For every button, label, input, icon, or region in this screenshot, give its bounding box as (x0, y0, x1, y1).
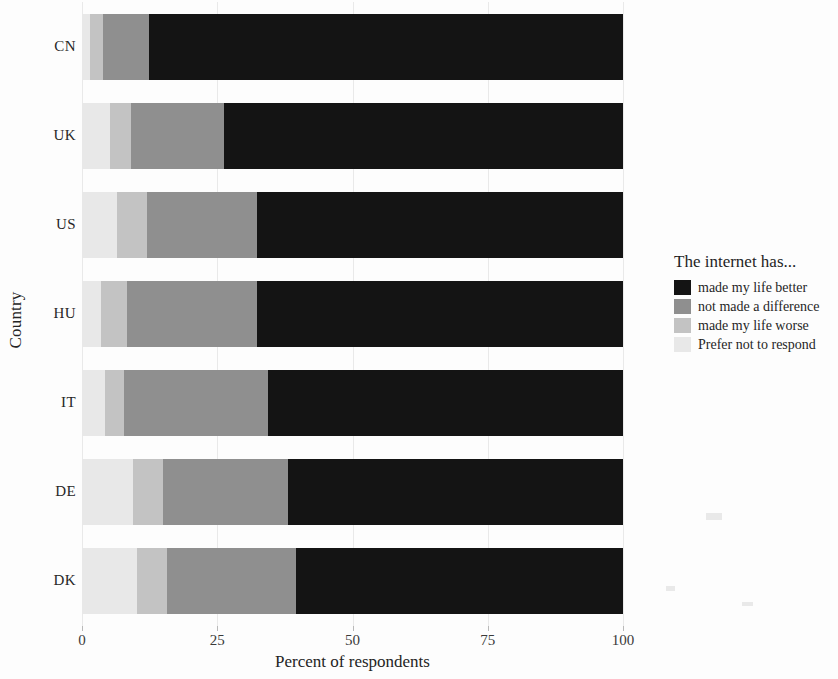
x-tick-label-25: 25 (187, 632, 247, 649)
legend-swatch-icon (674, 280, 691, 295)
bar-row (82, 370, 623, 436)
legend-item: not made a difference (674, 297, 836, 316)
bar-segment (127, 281, 257, 347)
bar-segment (224, 103, 623, 169)
legend-item-label: made my life worse (698, 318, 809, 334)
bar-segment (131, 103, 224, 169)
legend-swatch-icon (674, 318, 691, 333)
x-tick-mark (82, 626, 83, 631)
x-axis-title: Percent of respondents (82, 652, 623, 672)
scan-artifact (706, 513, 722, 520)
legend-item-label: Prefer not to respond (698, 337, 816, 353)
legend-title: The internet has... (674, 252, 836, 272)
legend-item: Prefer not to respond (674, 335, 836, 354)
legend-item-label: not made a difference (698, 299, 819, 315)
bar-segment (288, 459, 623, 525)
legend-item-label: made my life better (698, 280, 807, 296)
bar-segment (82, 103, 110, 169)
bar-row (82, 281, 623, 347)
bar-row (82, 14, 623, 80)
legend-item: made my life worse (674, 316, 836, 335)
bar-segment (82, 370, 105, 436)
bar-segment (149, 14, 623, 80)
bar-segment (296, 548, 623, 614)
x-tick-mark (488, 626, 489, 631)
bar-segment (147, 192, 257, 258)
legend-item: made my life better (674, 278, 836, 297)
legend-items: made my life betternot made a difference… (674, 278, 836, 354)
y-tick-label-de: DE (18, 483, 76, 500)
bar-segment (117, 192, 147, 258)
bar-segment (103, 14, 149, 80)
bar-segment (163, 459, 288, 525)
legend: The internet has... made my life bettern… (674, 252, 836, 354)
y-tick-label-us: US (18, 216, 76, 233)
scan-artifact (742, 602, 753, 606)
bar-row (82, 103, 623, 169)
y-tick-label-dk: DK (18, 572, 76, 589)
plot-area (82, 2, 623, 626)
x-tick-label-0: 0 (52, 632, 112, 649)
x-tick-mark (217, 626, 218, 631)
bar-segment (82, 459, 133, 525)
x-tick-label-50: 50 (323, 632, 383, 649)
bar-segment (137, 548, 167, 614)
bar-segment (133, 459, 163, 525)
bar-segment (124, 370, 268, 436)
x-tick-label-100: 100 (593, 632, 653, 649)
bar-segment (90, 14, 103, 80)
x-tick-label-75: 75 (458, 632, 518, 649)
bar-segment (167, 548, 295, 614)
bar-segment (105, 370, 124, 436)
legend-swatch-icon (674, 337, 691, 352)
y-tick-label-uk: UK (18, 127, 76, 144)
x-gridline (623, 2, 624, 626)
y-tick-label-hu: HU (18, 305, 76, 322)
bar-row (82, 548, 623, 614)
bar-segment (82, 192, 117, 258)
scan-artifact (666, 586, 675, 591)
bar-segment (101, 281, 127, 347)
bar-segment (82, 14, 90, 80)
stacked-bar-chart-figure: Country CNUKUSHUITDEDK 0255075100 Percen… (0, 0, 838, 679)
bar-segment (110, 103, 131, 169)
bar-segment (82, 281, 101, 347)
bar-row (82, 192, 623, 258)
bar-segment (257, 281, 623, 347)
y-tick-label-it: IT (18, 394, 76, 411)
legend-swatch-icon (674, 299, 691, 314)
x-tick-mark (353, 626, 354, 631)
bar-segment (268, 370, 623, 436)
y-tick-label-cn: CN (18, 38, 76, 55)
bar-segment (257, 192, 623, 258)
bar-row (82, 459, 623, 525)
bar-segment (82, 548, 137, 614)
x-tick-mark (623, 626, 624, 631)
